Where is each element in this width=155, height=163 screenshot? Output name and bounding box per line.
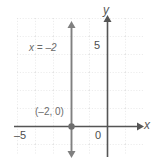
x-tick-label-0: 0 [95,130,101,141]
point-coordinate-label: (–2, 0) [35,107,64,117]
x-tick-label-negative-5: –5 [14,130,26,141]
y-tick-label-5: 5 [94,40,100,51]
line-equation-label: x = –2 [29,43,57,53]
x-axis-label: x [144,119,150,131]
point-marker [68,123,74,129]
grid-area [17,18,143,155]
y-axis-label: y [103,4,109,16]
graph-figure: y x 5 0 –5 x = –2 (–2, 0) [0,0,155,163]
grid [17,18,143,155]
plotted-point-negative-2-0 [68,123,74,129]
